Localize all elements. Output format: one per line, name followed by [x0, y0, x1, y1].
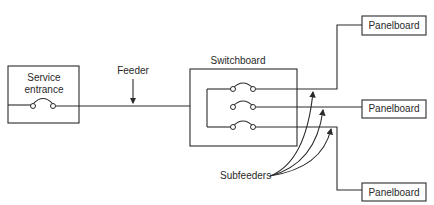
- svg-text:Panelboard: Panelboard: [368, 20, 419, 31]
- svg-text:Panelboard: Panelboard: [368, 103, 419, 114]
- panelboard-bottom: Panelboard: [362, 183, 426, 201]
- switchboard-box: Switchboard: [190, 55, 297, 146]
- breaker-terminal: [51, 104, 56, 109]
- svg-text:Panelboard: Panelboard: [368, 187, 419, 198]
- panelboard-top: Panelboard: [362, 16, 426, 35]
- breaker-terminal: [31, 104, 36, 109]
- distribution-diagram: Service entrance Feeder Switchboard: [0, 0, 434, 205]
- service-entrance-label-2: entrance: [25, 84, 64, 95]
- feeder-label: Feeder: [117, 65, 149, 76]
- panelboard-middle: Panelboard: [362, 100, 426, 118]
- switchboard-label: Switchboard: [210, 55, 265, 66]
- subfeeder-lines: [256, 25, 362, 190]
- service-entrance-label-1: Service: [27, 72, 61, 83]
- service-entrance-box: Service entrance: [8, 66, 79, 123]
- subfeeders-label: Subfeeders: [220, 170, 271, 181]
